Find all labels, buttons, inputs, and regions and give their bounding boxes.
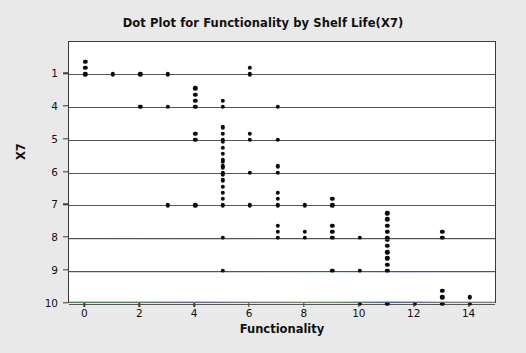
data-point [193, 105, 197, 109]
x-tick-label-12: 12 [407, 307, 420, 319]
data-point [385, 256, 389, 260]
data-point [248, 138, 252, 142]
data-point [138, 72, 142, 76]
data-point [440, 295, 444, 299]
data-point [440, 230, 444, 234]
gridline-row-7 [69, 205, 495, 206]
y-tick-mark-1 [63, 73, 68, 74]
data-point [193, 99, 197, 103]
y-tick-mark-9 [63, 269, 68, 270]
y-tick-mark-6 [63, 171, 68, 172]
chart-figure: Dot Plot for Functionality by Shelf Life… [0, 0, 526, 353]
data-point [220, 166, 224, 170]
data-point [275, 197, 279, 201]
data-point [220, 203, 224, 207]
data-point [193, 138, 197, 142]
data-point [330, 197, 334, 201]
gridline-row-5 [69, 140, 495, 141]
y-tick-label-5: 5 [28, 133, 58, 145]
gridline-color-tint [69, 272, 495, 273]
y-tick-label-7: 7 [28, 198, 58, 210]
data-point [248, 66, 252, 70]
data-point [83, 60, 87, 64]
baseline-color-tint [69, 301, 495, 303]
x-tick-label-4: 4 [191, 307, 198, 319]
y-tick-label-4: 4 [28, 100, 58, 112]
gridline-color-tint [69, 239, 495, 240]
data-point [385, 211, 389, 215]
data-point [275, 191, 279, 195]
data-point [275, 203, 279, 207]
data-point [220, 152, 224, 156]
x-tick-label-2: 2 [136, 307, 143, 319]
x-tick-label-8: 8 [301, 307, 308, 319]
data-point [248, 170, 252, 174]
y-tick-label-10: 10 [28, 297, 58, 309]
data-point [166, 105, 170, 109]
data-point [166, 203, 170, 207]
gridline-row-4 [69, 107, 495, 108]
y-tick-label-9: 9 [28, 264, 58, 276]
x-tick-label-0: 0 [81, 307, 88, 319]
data-point [275, 223, 279, 227]
gridline-row-10 [69, 304, 495, 305]
data-point [330, 230, 334, 234]
data-point [385, 262, 389, 266]
data-point [220, 184, 224, 188]
data-point [440, 289, 444, 293]
y-tick-mark-4 [63, 105, 68, 106]
data-point [275, 164, 279, 168]
data-point [220, 105, 224, 109]
data-point [220, 191, 224, 195]
plot-area [68, 41, 496, 303]
chart-title: Dot Plot for Functionality by Shelf Life… [0, 16, 526, 30]
data-point [275, 105, 279, 109]
data-point [275, 230, 279, 234]
data-point [385, 250, 389, 254]
data-point [220, 125, 224, 129]
x-tick-label-14: 14 [462, 307, 475, 319]
gridline-row-1 [69, 74, 495, 75]
y-tick-label-8: 8 [28, 231, 58, 243]
data-point [248, 203, 252, 207]
data-point [220, 99, 224, 103]
data-point [275, 170, 279, 174]
x-axis-title: Functionality [68, 322, 496, 336]
data-point [83, 72, 87, 76]
data-point [220, 131, 224, 135]
y-tick-mark-7 [63, 204, 68, 205]
data-point [193, 131, 197, 135]
data-point [193, 86, 197, 90]
data-point [220, 160, 224, 164]
data-point [193, 203, 197, 207]
data-point [385, 217, 389, 221]
y-tick-label-1: 1 [28, 67, 58, 79]
data-point [385, 244, 389, 248]
data-point [220, 139, 224, 143]
y-tick-mark-8 [63, 236, 68, 237]
data-point [330, 203, 334, 207]
data-point [275, 138, 279, 142]
x-tick-label-10: 10 [352, 307, 365, 319]
data-point [385, 230, 389, 234]
data-point [193, 92, 197, 96]
y-tick-mark-5 [63, 138, 68, 139]
data-point [83, 66, 87, 70]
data-point [248, 72, 252, 76]
y-tick-label-6: 6 [28, 166, 58, 178]
data-point [303, 230, 307, 234]
data-point [303, 203, 307, 207]
data-point [220, 172, 224, 176]
plot-inner [69, 42, 495, 302]
data-point [138, 105, 142, 109]
data-point [385, 223, 389, 227]
data-point [248, 131, 252, 135]
data-point [220, 197, 224, 201]
data-point [220, 145, 224, 149]
data-point [220, 178, 224, 182]
data-point [166, 72, 170, 76]
gridline-row-6 [69, 173, 495, 174]
data-point [467, 295, 471, 299]
x-tick-label-6: 6 [246, 307, 253, 319]
y-tick-mark-10 [63, 302, 68, 303]
